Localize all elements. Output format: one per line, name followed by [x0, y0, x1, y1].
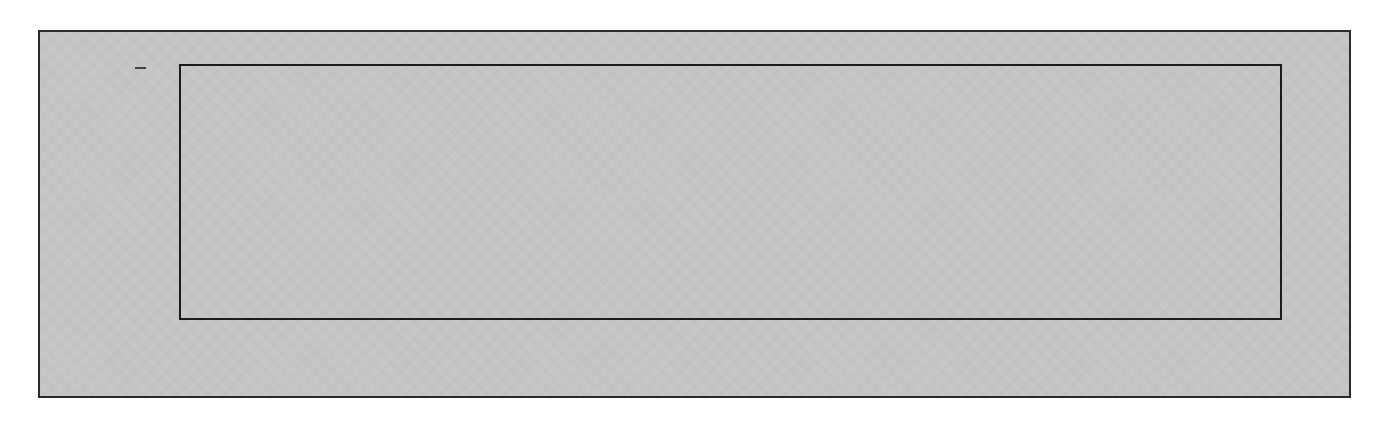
chart-figure: [38, 30, 1351, 398]
page-root: [0, 0, 1384, 446]
y-axis-top-tick-icon: [135, 67, 146, 69]
plot-area: [179, 64, 1282, 320]
data-series-band: [181, 66, 1280, 318]
